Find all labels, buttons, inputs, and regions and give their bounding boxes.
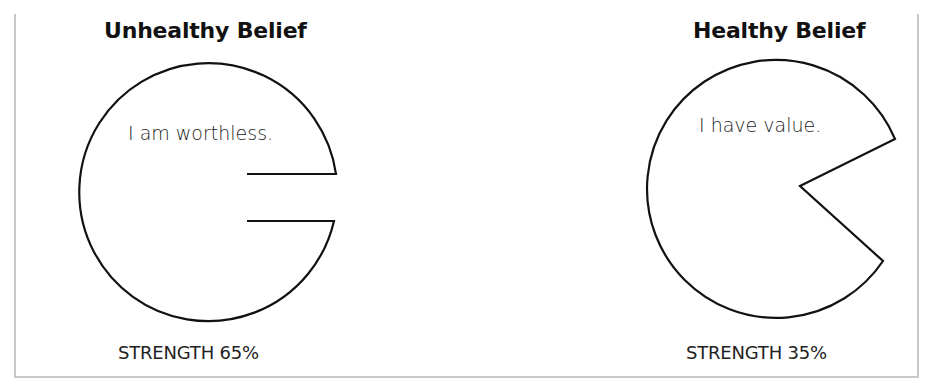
unhealthy-strength-label: STRENGTH 65% (118, 342, 259, 363)
unhealthy-belief-pie (79, 63, 336, 321)
healthy-strength-label: STRENGTH 35% (686, 342, 827, 363)
unhealthy-belief-statement: I am worthless. (128, 122, 273, 144)
healthy-belief-pie (647, 60, 895, 318)
healthy-belief-statement: I have value. (699, 114, 821, 136)
belief-pies (0, 0, 925, 389)
